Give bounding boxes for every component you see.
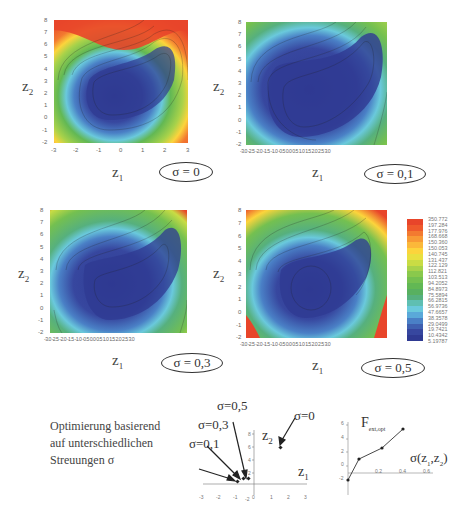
y-axis-label: z2 (213, 78, 224, 97)
y-tick: 4 (248, 457, 251, 463)
y-tick: 3 (44, 78, 47, 84)
y-tick: 4 (44, 66, 47, 72)
annotation-sigma-0-3: σ=0,3 (198, 417, 229, 433)
y-tick: 3 (238, 80, 241, 86)
x-tick: 3 (304, 494, 307, 500)
x-axis-label: z1 (312, 357, 323, 376)
x-tick: 2 (287, 494, 290, 500)
caption: Optimierung basierend auf unterschiedlic… (50, 418, 160, 469)
y-tick: 6 (238, 233, 241, 239)
y-tick: 2 (238, 284, 241, 290)
y-tick: 8 (44, 17, 47, 23)
colorbar-label: 5.19787 (428, 338, 448, 344)
x-axis-label: z1 (112, 352, 123, 371)
y-tick: 8 (238, 207, 241, 213)
x-tick: 2 (163, 147, 166, 153)
y-tick: 1 (238, 296, 241, 302)
colorbar-swatch (407, 335, 423, 341)
scatter-x-label: z1 (298, 464, 309, 482)
y-tick: -2 (236, 334, 241, 340)
x-tick: 0.2 (375, 468, 382, 474)
x-tick: 1 (270, 494, 273, 500)
colorbar-swatches (407, 219, 423, 341)
x-tick: -3 (51, 147, 56, 153)
caption-line: Streuungen σ (50, 452, 160, 469)
sigma-badge: σ = 0,3 (161, 353, 223, 373)
fext-y-label: Fext,opt (361, 415, 385, 432)
y-tick: 6 (40, 231, 43, 237)
x-tick: -3 (199, 494, 203, 500)
x-tick: -2 (73, 147, 78, 153)
y-tick: 0 (238, 117, 241, 123)
y-tick: -1 (38, 317, 43, 323)
y-tick: -2 (236, 141, 241, 147)
y-axis-label: z2 (18, 265, 29, 284)
y-tick: 0 (341, 461, 344, 467)
y-tick: 4 (238, 258, 241, 264)
sigma-badge: σ = 0 (159, 162, 213, 182)
x-tick: 0 (119, 147, 122, 153)
y-axis-label: z2 (213, 265, 224, 284)
x-ticks: -3.0 -2.5 -2.0 -1.5 -1.0 -0.5 0.0 0.5 1.… (240, 148, 330, 154)
y-tick: 0 (40, 305, 43, 311)
x-axis-label: z1 (312, 164, 323, 183)
y-tick: 7 (238, 31, 241, 37)
y-axis-label: z2 (22, 78, 33, 97)
y-tick: 7 (40, 219, 43, 225)
y-tick: -2 (339, 475, 343, 481)
y-tick: 8 (40, 207, 43, 213)
y-tick: 6 (341, 420, 344, 426)
y-tick: 4 (40, 256, 43, 262)
y-tick: 8 (238, 19, 241, 25)
y-tick: 8 (248, 431, 251, 437)
y-tick: 5 (238, 56, 241, 62)
y-tick: 0 (44, 114, 47, 120)
x-tick: -1 (96, 147, 101, 153)
y-tick: 2 (44, 90, 47, 96)
x-axis-label: z1 (112, 164, 123, 183)
contour-plot-area (54, 20, 188, 143)
y-tick: 4 (238, 68, 241, 74)
x-tick: -1 (233, 494, 237, 500)
x-tick: 3 (186, 147, 189, 153)
y-tick: 6 (44, 41, 47, 47)
x-ticks: -3.0 -2.5 -2.0 -1.5 -1.0 -0.5 0.0 0.5 1.… (240, 341, 330, 347)
scatter-y-label: z2 (262, 428, 273, 446)
y-tick: 6 (248, 444, 251, 450)
y-tick: -2 (245, 496, 249, 502)
annotation-sigma-0-1: σ=0,1 (189, 436, 220, 452)
y-tick: 1 (238, 104, 241, 110)
caption-line: Optimierung basierend (50, 418, 160, 435)
y-tick: 2 (238, 92, 241, 98)
y-tick: 3 (40, 268, 43, 274)
x-tick: -2 (216, 494, 220, 500)
y-tick: 5 (44, 53, 47, 59)
x-ticks: -3.0 -2.5 -2.0 -1.5 -1.0 -0.5 0.0 0.5 1.… (44, 336, 134, 342)
y-tick: 6 (238, 43, 241, 49)
y-tick: 3 (238, 271, 241, 277)
annotation-sigma-0-5: σ=0,5 (217, 398, 248, 414)
x-tick: 0.4 (399, 468, 406, 474)
contour-plot-area (246, 210, 387, 338)
sigma-badge: σ = 0,5 (361, 358, 425, 378)
y-tick: 7 (44, 29, 47, 35)
y-tick: -1 (236, 322, 241, 328)
x-tick: 1 (141, 147, 144, 153)
y-tick: 1 (44, 102, 47, 108)
y-tick: 7 (238, 220, 241, 226)
y-tick: 4 (341, 434, 344, 440)
y-tick: 0 (238, 309, 241, 315)
x-tick: 0.6 (423, 468, 430, 474)
y-tick: -1 (42, 127, 47, 133)
fext-x-label: σ(z1,z2) (410, 450, 447, 468)
y-tick: 5 (40, 244, 43, 250)
y-tick: 2 (248, 470, 251, 476)
contour-plot-area (246, 22, 387, 145)
y-tick: -2 (42, 139, 47, 145)
sigma-badge: σ = 0,1 (364, 164, 426, 184)
y-tick: 2 (40, 280, 43, 286)
y-tick: 2 (341, 448, 344, 454)
caption-line: auf unterschiedlichen (50, 435, 160, 452)
y-tick: 5 (238, 245, 241, 251)
y-tick: -1 (236, 129, 241, 135)
